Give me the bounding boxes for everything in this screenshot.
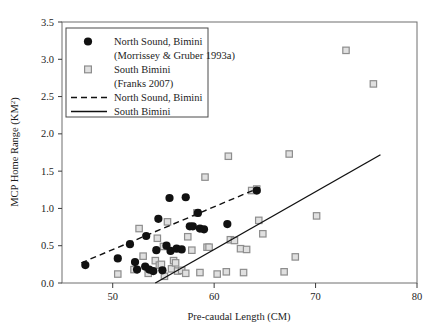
data-point-circle xyxy=(133,265,141,273)
data-point-square xyxy=(140,253,146,259)
y-tick-label: 2.5 xyxy=(41,91,54,102)
data-point-circle xyxy=(223,220,231,228)
scatter-plot: 0.00.51.01.52.02.53.03.5 50607080 Pre-ca… xyxy=(0,0,447,331)
x-axis-title: Pre-caudal Length (CM) xyxy=(187,311,291,323)
data-point-circle xyxy=(189,222,197,230)
y-axis-title: MCP Home Range (KM2) xyxy=(9,97,22,207)
data-point-square xyxy=(185,234,191,240)
data-point-square xyxy=(115,271,121,277)
legend-label-4: South Bimini xyxy=(114,106,170,117)
data-point-square xyxy=(237,245,243,251)
data-point-square xyxy=(225,153,231,159)
data-point-square xyxy=(370,81,376,87)
legend-label-2: South Bimini xyxy=(114,64,170,75)
data-point-square xyxy=(154,235,160,241)
x-tick-label: 80 xyxy=(412,291,423,302)
legend-marker-circle xyxy=(84,37,92,45)
data-point-circle xyxy=(182,193,190,201)
data-point-circle xyxy=(149,267,157,275)
data-point-square xyxy=(189,247,195,253)
data-point-square xyxy=(240,269,246,275)
y-title-close: ) xyxy=(9,97,21,101)
legend-label-3: North Sound, Bimini xyxy=(114,92,202,103)
y-tick-label: 2.0 xyxy=(41,128,54,139)
data-point-square xyxy=(172,260,178,266)
y-title-base: MCP Home Range (KM xyxy=(9,104,21,207)
y-tick-label: 3.5 xyxy=(41,17,54,28)
data-point-circle xyxy=(152,246,160,254)
y-tick-label: 0.0 xyxy=(41,278,54,289)
data-point-square xyxy=(343,47,349,53)
data-point-square xyxy=(136,225,142,231)
data-point-square xyxy=(206,244,212,250)
data-point-circle xyxy=(178,245,186,253)
data-point-square xyxy=(202,174,208,180)
data-point-circle xyxy=(142,232,150,240)
data-point-square xyxy=(214,271,220,277)
chart-figure: 0.00.51.01.52.02.53.03.5 50607080 Pre-ca… xyxy=(0,0,447,331)
legend-sublabel-2: (Franks 2007) xyxy=(114,78,174,90)
x-tick-label: 50 xyxy=(107,291,118,302)
data-point-circle xyxy=(126,240,134,248)
data-point-circle xyxy=(154,215,162,223)
x-tick-label: 70 xyxy=(310,291,321,302)
x-tick-label: 60 xyxy=(209,291,220,302)
data-point-square xyxy=(183,270,189,276)
data-point-square xyxy=(313,213,319,219)
data-point-circle xyxy=(114,254,122,262)
data-point-square xyxy=(292,254,298,260)
data-point-square xyxy=(197,269,203,275)
data-point-square xyxy=(281,269,287,275)
data-point-circle xyxy=(194,209,202,217)
data-point-square xyxy=(164,219,170,225)
legend-sublabel-1: (Morrissey & Gruber 1993a) xyxy=(114,50,236,62)
y-tick-label: 1.5 xyxy=(41,166,54,177)
data-point-square xyxy=(223,269,229,275)
data-point-circle xyxy=(253,186,261,194)
y-tick-label: 0.5 xyxy=(41,240,54,251)
data-point-circle xyxy=(158,266,166,274)
data-point-circle xyxy=(81,261,89,269)
data-point-square xyxy=(260,231,266,237)
legend-label-1: North Sound, Bimini xyxy=(114,36,202,47)
data-point-circle xyxy=(131,258,139,266)
data-point-circle xyxy=(165,194,173,202)
data-point-circle xyxy=(200,225,208,233)
y-tick-label: 3.0 xyxy=(41,54,54,65)
legend-marker-square xyxy=(85,66,92,73)
data-point-square xyxy=(286,151,292,157)
data-point-square xyxy=(243,246,249,252)
y-tick-label: 1.0 xyxy=(41,203,54,214)
